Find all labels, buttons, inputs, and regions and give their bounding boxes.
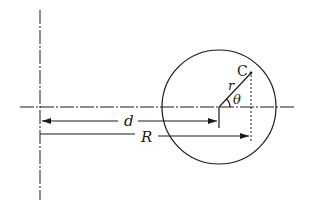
label-R: R xyxy=(140,128,152,146)
point-c-marker xyxy=(250,72,253,75)
angle-arc xyxy=(227,99,231,107)
d-arrow-left-icon xyxy=(42,118,51,124)
label-angle: θ xyxy=(233,92,241,107)
diagram-canvas: C r θ d R xyxy=(0,0,309,213)
label-radius: r xyxy=(228,78,235,93)
label-d: d xyxy=(124,112,134,130)
label-point-c: C xyxy=(237,63,248,79)
d-arrow-right-icon xyxy=(208,118,217,124)
r-arrow-right-icon xyxy=(240,133,249,139)
